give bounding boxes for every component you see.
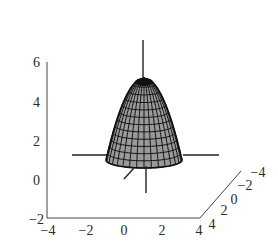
y-tick-4: 4 [209, 217, 216, 232]
x-tick-neg4: −4 [41, 223, 56, 238]
origin-y-axis-front [124, 168, 134, 179]
y-tick-neg4: −4 [251, 165, 266, 180]
x-tick-neg2: −2 [79, 223, 94, 238]
x-tick-0: 0 [121, 223, 128, 238]
paraboloid-3d-plot: 6 4 2 0 −2 −4 −2 0 2 4 4 2 0 −2 −4 [0, 0, 278, 251]
z-tick-0: 0 [33, 173, 40, 188]
surface-apex [135, 78, 153, 86]
x-tick-4: 4 [196, 223, 203, 238]
z-axis-ticks: 6 4 2 0 −2 [29, 55, 44, 227]
y-tick-2: 2 [221, 203, 228, 218]
paraboloid-surface [106, 78, 182, 168]
y-tick-0: 0 [231, 192, 238, 207]
z-tick-6: 6 [33, 55, 40, 70]
z-tick-4: 4 [33, 95, 40, 110]
y-tick-neg2: −2 [238, 178, 253, 193]
z-tick-2: 2 [33, 134, 40, 149]
x-axis-ticks: −4 −2 0 2 4 [41, 223, 203, 238]
x-tick-2: 2 [159, 223, 166, 238]
